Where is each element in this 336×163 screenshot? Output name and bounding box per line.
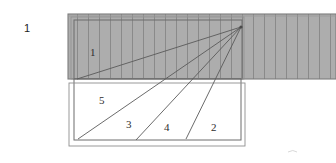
figure-root: 1 1 5 3 4 2 bbox=[0, 0, 336, 163]
region-label-3: 3 bbox=[126, 118, 132, 130]
region-label-5: 5 bbox=[99, 94, 105, 106]
lower-box bbox=[69, 79, 245, 146]
vertex-point bbox=[239, 25, 242, 28]
region-label-1: 1 bbox=[90, 46, 96, 58]
diagram-canvas: 1 1 5 3 4 2 bbox=[0, 0, 336, 163]
region-label-2: 2 bbox=[211, 121, 217, 133]
region-label-4: 4 bbox=[164, 121, 170, 133]
figure-index-label: 1 bbox=[24, 22, 30, 34]
